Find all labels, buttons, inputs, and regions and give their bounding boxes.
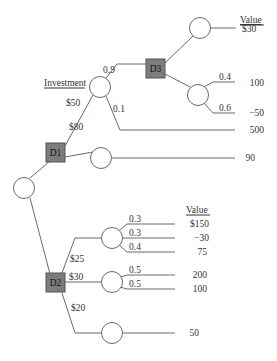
edge-c2-0.5a [120, 275, 175, 277]
chance-node-root [14, 178, 35, 199]
value-neg50: −50 [249, 108, 264, 118]
prob-c1-a: 0.3 [129, 214, 141, 224]
decision-label-d2: D2 [50, 278, 62, 288]
edge-low-0.4 [204, 82, 235, 87]
edge-d1-80-a [65, 152, 93, 157]
value-500: 500 [250, 125, 265, 135]
edge-d3-top [165, 36, 193, 63]
prob-low-0.6: 0.6 [219, 103, 231, 113]
chance-node-d1-80 [91, 148, 112, 169]
edge-root-d2 [30, 198, 50, 274]
header-investment: Investment [44, 78, 87, 88]
branch-label-d1-50: $50 [66, 98, 81, 108]
value-200: 200 [193, 270, 208, 280]
edge-d2-20 [62, 293, 102, 333]
value-75: 75 [198, 247, 208, 257]
decision-label-d1: D1 [50, 148, 62, 158]
branch-label-d2-25: $25 [70, 254, 85, 264]
chance-node-d2-20 [102, 323, 123, 344]
prob-c1-c: 0.4 [129, 242, 141, 252]
chance-node-d2-25 [102, 228, 123, 249]
prob-low-0.4: 0.4 [219, 72, 231, 82]
prob-inv-0.1: 0.1 [113, 104, 125, 114]
value-90: 90 [246, 153, 256, 163]
value-150: $150 [190, 219, 209, 229]
value-neg30: −30 [194, 233, 209, 243]
chance-node-d2-30 [102, 272, 123, 293]
decision-node-d2: D2 [46, 273, 65, 292]
chance-node-d3-top [190, 18, 211, 39]
edge-d3-low [165, 74, 192, 88]
value-30: $30 [242, 24, 257, 34]
header-value-bottom: Value [186, 205, 208, 215]
branch-label-d2-30: $30 [69, 272, 84, 282]
prob-c2-b: 0.5 [129, 279, 141, 289]
edge-c1-0.4 [119, 245, 175, 252]
prob-c2-a: 0.5 [129, 265, 141, 275]
decision-node-d3: D3 [146, 59, 165, 78]
branch-label-d1-80: $80 [69, 122, 84, 132]
prob-inv-0.9: 0.9 [103, 65, 115, 75]
decision-tree-diagram: D1 D2 D3 Value Investment Value $50 $80 … [0, 0, 277, 361]
branch-label-d2-20: $20 [71, 303, 86, 313]
chance-node-investment [90, 77, 111, 98]
chance-node-d3-low [188, 85, 209, 106]
value-50: 50 [190, 328, 200, 338]
decision-label-d3: D3 [150, 64, 162, 74]
edge-c1-0.3a [119, 224, 175, 231]
edge-root-d1 [30, 161, 50, 178]
prob-c1-b: 0.3 [129, 228, 141, 238]
decision-node-d1: D1 [46, 143, 65, 162]
value-100-top: 100 [250, 78, 265, 88]
value-100-bottom: 100 [193, 284, 208, 294]
